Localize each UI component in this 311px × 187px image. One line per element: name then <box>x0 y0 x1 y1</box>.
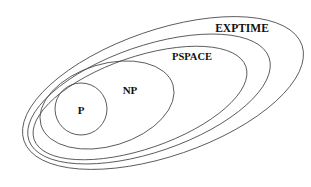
complexity-venn-diagram: EXPTIME PSPACE NP P <box>0 0 311 187</box>
label-pspace: PSPACE <box>172 51 212 62</box>
label-exptime: EXPTIME <box>215 22 269 34</box>
venn-diagram-canvas: EXPTIME PSPACE NP P <box>0 0 311 187</box>
region-pspace-ellipse <box>12 8 287 187</box>
label-np: NP <box>123 84 138 96</box>
label-p: P <box>78 104 85 116</box>
